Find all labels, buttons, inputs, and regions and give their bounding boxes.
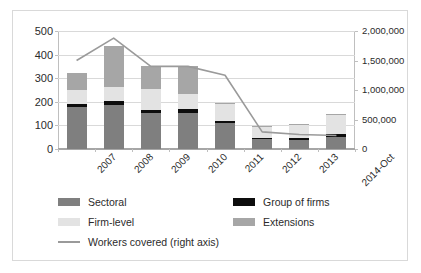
chart-legend: SectoralGroup of firmsFirm-levelExtensio…: [58, 197, 388, 255]
legend-line-swatch: [58, 238, 80, 246]
legend-color-swatch: [58, 198, 80, 206]
x-axis-label-2012: 2012: [281, 152, 304, 175]
y2-axis-tick-label: 500,000: [362, 115, 396, 125]
x-axis-label-2013: 2013: [318, 152, 341, 175]
x-axis-label-2014-oct: 2014-Oct: [360, 152, 396, 188]
x-axis-tick: [355, 149, 356, 152]
legend-item-firm-level[interactable]: Firm-level: [58, 217, 134, 228]
y-axis-tick-label: 0: [47, 144, 53, 155]
y-axis-tick-label: 400: [35, 49, 53, 60]
x-axis-label-2011: 2011: [243, 152, 265, 174]
legend-label: Group of firms: [263, 197, 330, 208]
y2-axis-tick-label: 0: [362, 144, 367, 154]
plot-area: [58, 31, 355, 149]
y2-axis-tick: [355, 61, 358, 62]
y-axis-left: 0100200300400500: [13, 31, 53, 149]
y2-axis-tick: [355, 90, 358, 91]
chart-frame: 0100200300400500 0500,0001,000,0001,500,…: [12, 10, 408, 261]
y-axis-tick-label: 500: [35, 26, 53, 37]
legend-color-swatch: [233, 218, 255, 226]
y2-axis-tick-label: 1,500,000: [362, 56, 404, 66]
legend-color-swatch: [58, 218, 80, 226]
y-axis-tick-label: 200: [35, 96, 53, 107]
legend-label: Workers covered (right axis): [88, 237, 219, 248]
chart-container: 0100200300400500 0500,0001,000,0001,500,…: [0, 0, 421, 273]
legend-item-workers-covered-right-axis[interactable]: Workers covered (right axis): [58, 237, 219, 248]
legend-color-swatch: [233, 198, 255, 206]
x-axis-label-2010: 2010: [206, 152, 229, 175]
legend-item-sectoral[interactable]: Sectoral: [58, 197, 127, 208]
line-path: [77, 38, 337, 135]
legend-label: Extensions: [263, 217, 314, 228]
x-axis: 20072008200920102011201220132014-Oct: [58, 150, 355, 194]
y-axis-tick-label: 300: [35, 73, 53, 84]
x-axis-label-2007: 2007: [95, 152, 118, 175]
y2-axis-tick-label: 2,000,000: [362, 26, 404, 36]
y-axis-right: 0500,0001,000,0001,500,0002,000,000: [362, 31, 421, 149]
y2-axis-tick: [355, 120, 358, 121]
y2-axis-tick-label: 1,000,000: [362, 85, 404, 95]
legend-item-group-of-firms[interactable]: Group of firms: [233, 197, 330, 208]
legend-item-extensions[interactable]: Extensions: [233, 217, 314, 228]
y-axis-tick-label: 100: [35, 120, 53, 131]
y2-axis-tick: [355, 31, 358, 32]
line-series-workers-covered: [58, 31, 355, 149]
x-axis-label-2008: 2008: [132, 152, 155, 175]
x-axis-label-2009: 2009: [169, 152, 192, 175]
legend-label: Firm-level: [88, 217, 134, 228]
legend-label: Sectoral: [88, 197, 127, 208]
